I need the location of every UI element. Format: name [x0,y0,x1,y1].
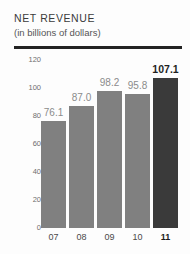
x-tick-label-10: 10 [125,232,150,243]
net-revenue-chart-figure: NET REVENUE (in billions of dollars) 020… [0,0,190,254]
x-tick-label-11: 11 [153,232,178,243]
bar-value-label-10: 95.8 [119,80,156,91]
bar-slot[interactable]: 107.1 [153,60,178,228]
bar-value-label-11: 107.1 [147,64,184,75]
bar-series: 76.187.098.295.8107.1 [41,60,180,228]
bar-08[interactable] [69,106,94,228]
bar-10[interactable] [125,94,150,228]
bar-slot[interactable]: 76.1 [41,60,66,228]
bar-value-label-08: 87.0 [63,92,100,103]
plot-area: 020406080100120 76.187.098.295.8107.1 07… [0,0,190,254]
y-tick-label: 40 [15,168,41,176]
bar-11[interactable] [153,78,178,228]
bar-value-label-07: 76.1 [35,107,72,118]
y-tick-label: 120 [15,56,41,64]
y-tick-label: 100 [15,84,41,92]
x-tick-label-07: 07 [41,232,66,243]
y-tick-label: 60 [15,140,41,148]
bar-09[interactable] [97,91,122,228]
y-tick-label: 0 [15,224,41,232]
bar-slot[interactable]: 95.8 [125,60,150,228]
x-tick-label-08: 08 [69,232,94,243]
y-tick-label: 20 [15,196,41,204]
x-tick-label-09: 09 [97,232,122,243]
x-axis-tick-labels: 0708091011 [41,232,180,246]
bar-07[interactable] [41,121,66,228]
